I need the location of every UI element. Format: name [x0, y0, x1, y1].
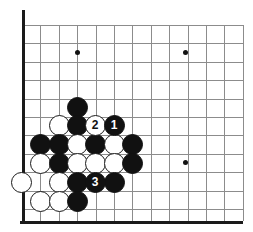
black-stone[interactable] — [30, 134, 51, 155]
go-board-diagram: 213 — [0, 0, 253, 232]
black-stone[interactable] — [104, 172, 125, 193]
stone-move-number: 3 — [86, 173, 105, 192]
white-stone-move-2[interactable]: 2 — [85, 115, 106, 136]
stone-move-number: 2 — [86, 116, 105, 135]
black-stone[interactable] — [67, 191, 88, 212]
stone-move-number: 1 — [105, 116, 124, 135]
black-stone-move-3[interactable]: 3 — [85, 172, 106, 193]
black-stone[interactable] — [122, 134, 143, 155]
white-stone[interactable] — [85, 153, 106, 174]
black-stone[interactable] — [85, 134, 106, 155]
black-stone[interactable] — [122, 153, 143, 174]
white-stone[interactable] — [11, 172, 32, 193]
white-stone[interactable] — [30, 153, 51, 174]
black-stone-move-1[interactable]: 1 — [104, 115, 125, 136]
stones-layer: 213 — [0, 0, 253, 232]
white-stone[interactable] — [30, 191, 51, 212]
